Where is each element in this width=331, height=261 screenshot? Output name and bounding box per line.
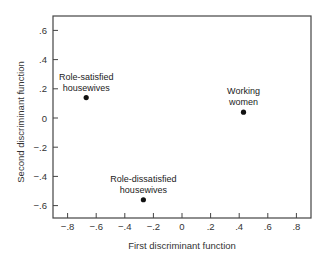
y-tick-label: .2 — [39, 83, 47, 94]
y-tick-label: −.6 — [34, 200, 47, 211]
x-tick-label: 0 — [179, 221, 184, 232]
y-tick-label: 0 — [42, 113, 47, 124]
x-tick-label: −.6 — [89, 221, 102, 232]
x-tick-label: .2 — [207, 221, 215, 232]
data-point-label: housewives — [63, 83, 111, 93]
data-point-label: Role-dissatisfied — [110, 174, 176, 184]
x-tick-label: .4 — [235, 221, 243, 232]
data-point-marker — [241, 110, 246, 115]
data-points: Role-satisfiedhousewivesRole-dissatisfie… — [59, 72, 260, 203]
y-tick-label: .4 — [39, 54, 47, 65]
x-tick-label: .8 — [292, 221, 300, 232]
x-tick-label: .6 — [264, 221, 272, 232]
x-tick-label: −.4 — [118, 221, 131, 232]
data-point-group: Role-satisfiedhousewives — [59, 72, 114, 101]
plot-frame — [53, 16, 311, 218]
data-point-group: Workingwomen — [227, 86, 260, 115]
data-point-label: women — [228, 97, 258, 107]
y-tick-label: −.2 — [34, 142, 47, 153]
scatter-chart: −.8−.6−.4−.20.2.4.6.8 .6.4.20−.2−.4−.6 F… — [0, 0, 331, 261]
data-point-group: Role-dissatisfiedhousewives — [110, 174, 176, 203]
data-point-marker — [141, 197, 146, 202]
x-axis-ticks: −.8−.6−.4−.20.2.4.6.8 — [61, 213, 301, 232]
x-axis-title: First discriminant function — [128, 240, 236, 251]
x-tick-label: −.2 — [147, 221, 160, 232]
y-axis-title: Second discriminant function — [15, 61, 26, 182]
data-point-label: Role-satisfied — [59, 72, 114, 82]
y-tick-label: −.4 — [34, 171, 47, 182]
data-point-marker — [84, 95, 89, 100]
data-point-label: housewives — [120, 185, 168, 195]
data-point-label: Working — [227, 86, 260, 96]
y-axis-ticks: .6.4.20−.2−.4−.6 — [34, 25, 58, 211]
y-tick-label: .6 — [39, 25, 47, 36]
x-tick-label: −.8 — [61, 221, 74, 232]
